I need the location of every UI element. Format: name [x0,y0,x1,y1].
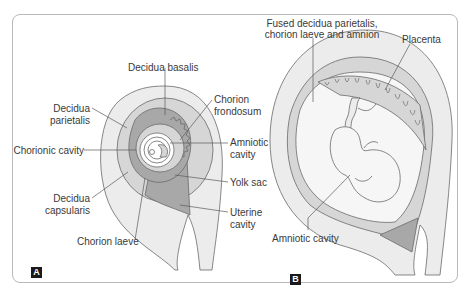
label-amniotic-cavity-line1: Amniotic [230,137,268,148]
label-decidua-parietalis-line2: parietalis [40,115,90,126]
label-decidua-capsularis-line1: Decidua [36,193,90,204]
label-chorion-laeve: Chorion laeve [77,236,139,247]
label-uterine-cavity-line2: cavity [230,219,256,230]
label-placenta: Placenta [402,34,441,45]
panel-tag-a: A [31,267,42,278]
label-uterine-cavity-line1: Uterine [230,207,262,218]
label-amniotic-cavity-line2: cavity [230,149,256,160]
panel-tag-b: B [290,274,301,285]
label-yolk-sac: Yolk sac [230,177,267,188]
label-decidua-parietalis-line1: Decidua [40,103,90,114]
label-amniotic-cavity-b: Amniotic cavity [272,233,339,244]
label-fused-membranes-line1: Fused decidua parietalis, [256,18,388,29]
label-chorion-frondosum-line1: Chorion [214,94,249,105]
label-chorionic-cavity: Chorionic cavity [2,145,84,156]
label-chorion-frondosum-line2: frondosum [214,106,261,117]
label-fused-membranes-line2: chorion laeve and amnion [256,29,388,40]
label-decidua-basalis: Decidua basalis [128,62,199,73]
label-decidua-capsularis-line2: capsularis [36,205,90,216]
